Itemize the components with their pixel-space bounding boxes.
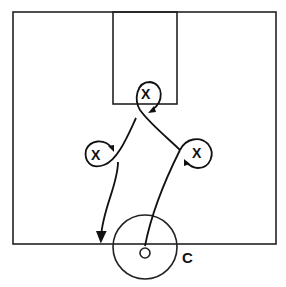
play-diagram: X X X C xyxy=(0,0,286,287)
player-x-right: X xyxy=(192,145,202,161)
player-x-left: X xyxy=(91,147,101,163)
court-outline xyxy=(13,12,276,244)
ball-holder-o xyxy=(140,248,150,258)
left-player-arrowhead xyxy=(108,145,114,152)
center-circle xyxy=(113,215,177,279)
player-x-top: X xyxy=(141,86,151,102)
coach-label: C xyxy=(182,249,193,266)
left-cut-path xyxy=(101,162,118,238)
ball-holder-path xyxy=(145,150,180,246)
